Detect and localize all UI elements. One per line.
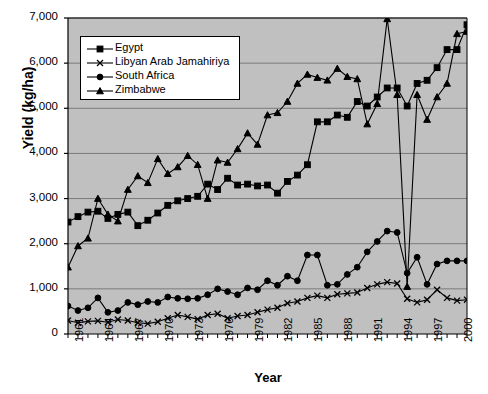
x-tick-label: 1967 [133, 318, 145, 342]
data-point-marker [404, 270, 410, 276]
legend-item-south-africa: South Africa [85, 68, 235, 82]
x-tick-label: 1979 [253, 318, 265, 342]
data-point-marker [305, 252, 311, 258]
data-point-marker [225, 289, 231, 295]
data-point-marker [434, 65, 440, 71]
data-point-marker [295, 278, 301, 284]
x-axis-title: Year [68, 370, 468, 385]
data-point-marker [215, 187, 221, 193]
data-point-marker [434, 261, 440, 267]
y-tick-label: 5,000 [0, 100, 58, 112]
data-point-marker [125, 300, 131, 306]
legend-item-zimbabwe: Zimbabwe [85, 82, 235, 96]
data-point-marker [235, 182, 241, 188]
data-point-marker [97, 46, 103, 52]
data-point-marker [195, 193, 201, 199]
y-tick-label: 1,000 [0, 281, 58, 293]
chart-legend: EgyptLibyan Arab JamahiriyaSouth AfricaZ… [80, 36, 240, 100]
x-tick-label: 1973 [193, 318, 205, 342]
data-point-marker [65, 303, 71, 309]
data-point-marker [384, 228, 390, 234]
cross-marker-icon [85, 55, 115, 67]
data-point-marker [444, 258, 450, 264]
data-point-marker [354, 264, 360, 270]
x-tick-label: 1964 [103, 318, 115, 342]
data-point-marker [155, 210, 161, 216]
data-point-marker [314, 119, 320, 125]
x-tick-label: 1970 [163, 318, 175, 342]
data-point-marker [324, 282, 330, 288]
data-point-marker [115, 308, 121, 314]
y-tick-label: 0 [0, 326, 58, 338]
x-tick-label: 1982 [282, 318, 294, 342]
data-point-marker [404, 103, 410, 109]
data-point-marker [215, 286, 221, 292]
y-tick-label: 2,000 [0, 236, 58, 248]
data-point-marker [135, 302, 141, 308]
square-marker-icon [85, 41, 115, 53]
data-point-marker [364, 249, 370, 255]
x-tick-label: 1988 [342, 318, 354, 342]
data-point-marker [275, 190, 281, 196]
data-point-marker [354, 99, 360, 105]
data-point-marker [235, 292, 241, 298]
data-point-marker [165, 294, 171, 300]
legend-label: Egypt [115, 41, 143, 53]
data-point-marker [285, 273, 291, 279]
data-point-marker [175, 198, 181, 204]
y-tick-label: 4,000 [0, 145, 58, 157]
data-point-marker [305, 162, 311, 168]
data-point-marker [195, 295, 201, 301]
legend-label: Zimbabwe [115, 83, 166, 95]
legend-item-egypt: Egypt [85, 40, 235, 54]
x-tick-label: 1997 [432, 318, 444, 342]
data-point-marker [424, 281, 430, 287]
triangle-marker-icon [85, 83, 115, 95]
x-tick-label: 2000 [462, 318, 474, 342]
data-point-marker [65, 219, 71, 225]
data-point-marker [245, 285, 251, 291]
data-point-marker [185, 296, 191, 302]
x-tick-label: 1976 [223, 318, 235, 342]
data-point-marker [145, 299, 151, 305]
data-point-marker [374, 239, 380, 245]
data-point-marker [265, 182, 271, 188]
data-point-marker [384, 85, 390, 91]
data-point-marker [205, 292, 211, 298]
data-point-marker [334, 281, 340, 287]
data-point-marker [394, 85, 400, 91]
data-point-marker [374, 94, 380, 100]
data-point-marker [97, 74, 103, 80]
x-tick-label: 1991 [372, 318, 384, 342]
chart-container: Yield (kg/ha) Year 01,0002,0003,0004,000… [0, 0, 488, 394]
data-point-marker [444, 47, 450, 53]
y-tick-label: 6,000 [0, 55, 58, 67]
data-point-marker [205, 181, 211, 187]
x-tick-label: 1985 [312, 318, 324, 342]
data-point-marker [285, 179, 291, 185]
data-point-marker [145, 217, 151, 223]
data-point-marker [125, 209, 131, 215]
data-point-marker [394, 230, 400, 236]
y-tick-label: 7,000 [0, 10, 58, 22]
data-point-marker [165, 202, 171, 208]
data-point-marker [245, 181, 251, 187]
data-point-marker [334, 112, 340, 118]
x-tick-label: 1994 [402, 318, 414, 342]
data-point-marker [255, 183, 261, 189]
data-point-marker [324, 119, 330, 125]
data-point-marker [364, 103, 370, 109]
legend-label: Libyan Arab Jamahiriya [115, 55, 229, 67]
data-point-marker [314, 252, 320, 258]
data-point-marker [225, 175, 231, 181]
data-point-marker [424, 77, 430, 83]
legend-label: South Africa [115, 69, 174, 81]
data-point-marker [344, 272, 350, 278]
data-point-marker [175, 295, 181, 301]
data-point-marker [105, 309, 111, 315]
data-point-marker [85, 209, 91, 215]
data-point-marker [185, 196, 191, 202]
data-point-marker [75, 308, 81, 314]
data-point-marker [464, 258, 470, 264]
data-point-marker [85, 305, 91, 311]
